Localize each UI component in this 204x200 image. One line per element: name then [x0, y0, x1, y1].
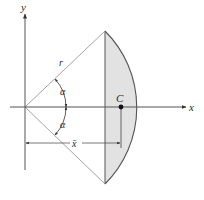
radius-label: r — [59, 57, 63, 68]
angle-label-upper: α — [60, 86, 66, 97]
xbar-label: x̄ — [71, 138, 77, 149]
centroid-point — [119, 105, 124, 110]
centroid-label: C — [116, 92, 124, 104]
segment-centroid-diagram: y x r α α C x̄ — [0, 0, 204, 200]
x-axis-label: x — [188, 101, 194, 113]
angle-label-lower: α — [60, 119, 66, 130]
y-axis-label: y — [20, 1, 26, 13]
